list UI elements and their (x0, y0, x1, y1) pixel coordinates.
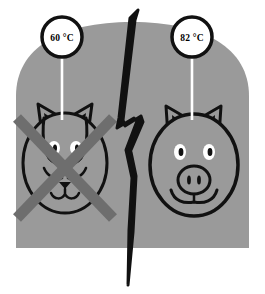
left-temperature-label: 60 °C (50, 33, 74, 43)
pig-right-nostril-icon (197, 176, 201, 185)
pig-snout-icon (178, 166, 210, 194)
right-temperature-label: 82 °C (180, 33, 204, 43)
temperature-callout-left[interactable]: 60 °C (42, 17, 82, 57)
pig-left-pupil-icon (179, 148, 184, 156)
pig-left-nostril-icon (187, 176, 191, 185)
pig-right-pupil-icon (208, 148, 213, 156)
temperature-callout-right[interactable]: 82 °C (172, 17, 212, 57)
illustration-canvas: 60 °C 82 °C (0, 0, 265, 294)
illustration-root: 60 °C 82 °C (0, 0, 265, 294)
